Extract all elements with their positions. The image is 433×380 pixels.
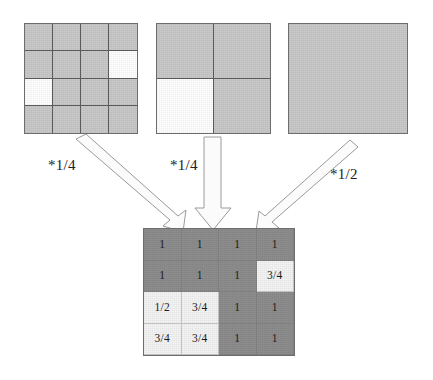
grid-cell: [53, 106, 81, 133]
result-cell: 1: [257, 324, 295, 356]
result-cell: 1: [144, 229, 182, 261]
input-grid-2x2: [156, 23, 271, 134]
result-cell: 1: [144, 261, 182, 293]
grid-cell: [53, 51, 81, 78]
grid-cell: [25, 51, 53, 78]
result-cell: 1: [257, 229, 295, 261]
weight-label-grid-4x4: *1/4: [48, 157, 76, 174]
grid-cell: [53, 79, 81, 106]
arrow-from-grid-2x2-icon: [195, 137, 231, 230]
grid-cell: [214, 79, 271, 134]
input-grid-4x4: [24, 23, 138, 134]
grid-cell: [289, 24, 407, 133]
input-grid-1x1: [288, 23, 408, 134]
grid-cell: [25, 106, 53, 133]
result-cell: 1/2: [144, 292, 182, 324]
result-cell: 3/4: [144, 324, 182, 356]
result-cell: 1: [219, 261, 257, 293]
result-cell: 1: [182, 229, 220, 261]
result-cell: 1: [257, 292, 295, 324]
result-grid: 1 1 1 1 1 1 1 3/4 1/2 3/4 1 1 3/4 3/4 1 …: [143, 228, 295, 356]
grid-cell: [157, 24, 214, 79]
grid-cell: [81, 24, 109, 51]
result-cell: 1: [182, 261, 220, 293]
grid-cell: [25, 24, 53, 51]
result-cell: 1: [219, 229, 257, 261]
grid-cell: [109, 51, 137, 78]
result-cell: 3/4: [182, 292, 220, 324]
result-cell: 3/4: [182, 324, 220, 356]
grid-cell: [53, 24, 81, 51]
weight-label-grid-2x2: *1/4: [170, 157, 198, 174]
arrow-from-grid-1x1-icon: [256, 140, 358, 231]
grid-cell: [214, 24, 271, 79]
grid-cell: [81, 79, 109, 106]
arrow-from-grid-4x4-icon: [76, 134, 186, 232]
grid-cell: [81, 51, 109, 78]
weight-label-grid-1x1: *1/2: [330, 166, 358, 183]
result-cell: 1: [219, 324, 257, 356]
figure-canvas: *1/4 *1/4 *1/2 1 1 1 1 1 1 1 3/4 1/2 3/4…: [0, 0, 433, 380]
grid-cell: [109, 106, 137, 133]
grid-cell: [109, 79, 137, 106]
grid-cell: [157, 79, 214, 134]
grid-cell: [25, 79, 53, 106]
grid-cell: [81, 106, 109, 133]
result-cell: 3/4: [257, 261, 295, 293]
result-cell: 1: [219, 292, 257, 324]
grid-cell: [109, 24, 137, 51]
